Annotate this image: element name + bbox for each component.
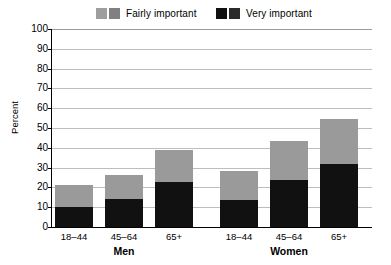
- bar-men-45–64: [105, 175, 143, 227]
- x-tick-label-men-45–64: 45–64: [96, 231, 152, 242]
- x-tick-label-women-65+: 65+: [311, 231, 367, 242]
- bar-chart: Percent 1009080706050403020100 18–4445–6…: [0, 0, 391, 265]
- bar-segment-very-important: [270, 180, 308, 227]
- y-axis-tick-labels: 1009080706050403020100: [20, 0, 48, 265]
- x-axis-line: [52, 227, 372, 228]
- y-tick-label-50: 50: [22, 123, 48, 133]
- y-tick-mark-10: [48, 207, 52, 208]
- y-tick-mark-20: [48, 187, 52, 188]
- plot-area: [52, 29, 372, 227]
- group-label-women: Women: [244, 245, 334, 257]
- gridline-70: [52, 88, 372, 89]
- y-tick-mark-80: [48, 69, 52, 70]
- bar-segment-very-important: [105, 199, 143, 227]
- y-tick-label-20: 20: [22, 182, 48, 192]
- group-label-men: Men: [79, 245, 169, 257]
- y-tick-label-70: 70: [22, 83, 48, 93]
- y-tick-mark-0: [48, 227, 52, 228]
- bar-segment-very-important: [320, 164, 358, 227]
- bar-women-65+: [320, 119, 358, 227]
- x-tick-label-women-45–64: 45–64: [261, 231, 317, 242]
- y-tick-label-30: 30: [22, 163, 48, 173]
- y-tick-label-60: 60: [22, 103, 48, 113]
- bar-segment-fairly-important: [220, 171, 258, 201]
- bar-men-18–44: [55, 185, 93, 227]
- y-tick-mark-50: [48, 128, 52, 129]
- x-tick-label-men-18–44: 18–44: [46, 231, 102, 242]
- bar-segment-fairly-important: [155, 150, 193, 183]
- bar-women-18–44: [220, 171, 258, 227]
- bar-segment-very-important: [55, 207, 93, 227]
- y-tick-label-0: 0: [22, 222, 48, 232]
- bar-segment-fairly-important: [105, 175, 143, 200]
- y-tick-mark-90: [48, 49, 52, 50]
- y-axis-title: Percent: [9, 88, 20, 148]
- y-tick-label-10: 10: [22, 202, 48, 212]
- y-tick-label-100: 100: [22, 24, 48, 34]
- x-tick-label-men-65+: 65+: [146, 231, 202, 242]
- x-tick-label-women-18–44: 18–44: [211, 231, 267, 242]
- gridline-80: [52, 69, 372, 70]
- bar-segment-fairly-important: [320, 119, 358, 164]
- y-tick-label-80: 80: [22, 64, 48, 74]
- bar-segment-fairly-important: [270, 141, 308, 181]
- bar-segment-very-important: [220, 200, 258, 227]
- y-tick-mark-70: [48, 88, 52, 89]
- bar-segment-fairly-important: [55, 185, 93, 207]
- y-tick-mark-60: [48, 108, 52, 109]
- gridline-100: [52, 29, 372, 30]
- bar-segment-very-important: [155, 182, 193, 227]
- y-tick-label-40: 40: [22, 143, 48, 153]
- y-tick-label-90: 90: [22, 44, 48, 54]
- y-tick-mark-40: [48, 148, 52, 149]
- y-tick-mark-30: [48, 168, 52, 169]
- bar-women-45–64: [270, 141, 308, 227]
- y-tick-mark-100: [48, 29, 52, 30]
- bar-men-65+: [155, 150, 193, 227]
- gridline-90: [52, 49, 372, 50]
- gridline-60: [52, 108, 372, 109]
